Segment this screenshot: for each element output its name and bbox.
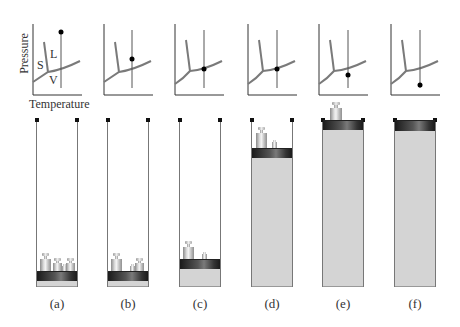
cylinder-b: [107, 118, 149, 287]
phase-diagram-b: [104, 24, 153, 95]
piston-stop: [178, 118, 182, 122]
piston-stop: [250, 118, 254, 122]
panel-label-c: (c): [179, 296, 221, 312]
gas-region: [108, 280, 148, 287]
piston-stop: [218, 118, 222, 122]
piston: [252, 148, 292, 158]
panel-label-d: (d): [251, 296, 293, 312]
piston: [395, 120, 435, 131]
phase-diagram-e: [319, 24, 368, 95]
weight-large: [183, 241, 194, 259]
gas-region: [395, 129, 435, 287]
piston: [180, 259, 220, 269]
gas-region: [252, 156, 292, 287]
weight-large: [111, 253, 122, 271]
pressure-axis-label: Pressure: [17, 24, 32, 84]
weight-large: [256, 127, 267, 148]
cylinder-e: [322, 118, 364, 287]
piston: [37, 271, 77, 281]
region-label-solid: S: [37, 58, 44, 73]
gas-region: [37, 280, 77, 287]
state-point-dot: [275, 67, 280, 72]
cylinder-a: [36, 118, 78, 287]
weight-large: [40, 253, 51, 271]
phase-diagram-f: [391, 24, 440, 95]
state-point-dot: [418, 83, 423, 88]
cylinder-c: [179, 118, 221, 287]
piston: [323, 120, 363, 130]
phase-diagram-d: [248, 24, 297, 95]
phase-diagram-c: [175, 24, 224, 95]
piston-stop: [146, 118, 150, 122]
gas-region: [323, 128, 363, 287]
piston: [108, 271, 148, 281]
temperature-axis-label: Temperature: [29, 97, 89, 112]
weight-medium: [135, 258, 144, 271]
state-point-dot: [202, 67, 207, 72]
weight-large: [330, 102, 342, 120]
panel-label-e: (e): [322, 296, 364, 312]
piston-stop: [75, 118, 79, 122]
piston-stop: [35, 118, 39, 122]
panel-label-f: (f): [394, 296, 436, 312]
panel-label-a: (a): [36, 296, 78, 312]
state-point-dot: [130, 57, 135, 62]
panel-label-b: (b): [107, 296, 149, 312]
cylinder-d: [251, 118, 293, 287]
weight-small: [202, 252, 207, 259]
piston-stop: [290, 118, 294, 122]
region-label-vapor: V: [49, 73, 58, 88]
region-label-liquid: L: [50, 47, 57, 62]
piston-stop: [106, 118, 110, 122]
weight-medium: [66, 258, 75, 271]
gas-region: [180, 267, 220, 287]
phase-diagrams: [0, 0, 460, 110]
state-point-dot: [346, 73, 351, 78]
state-point-dot: [59, 30, 64, 35]
weight-small: [272, 140, 277, 148]
weight-medium: [53, 258, 62, 271]
cylinder-f: [394, 118, 436, 287]
